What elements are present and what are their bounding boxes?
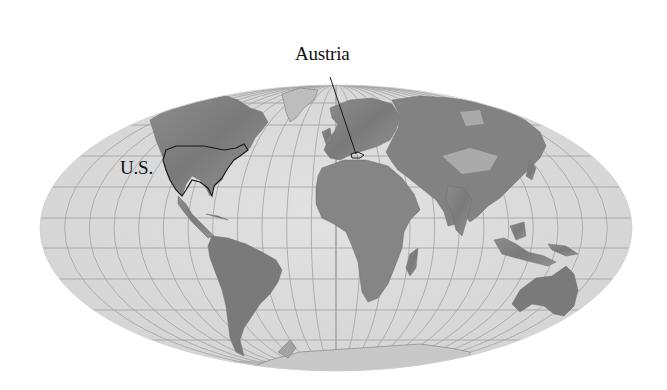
label-austria: Austria <box>295 44 350 63</box>
label-us: U.S. <box>120 158 153 177</box>
world-map: Austria U.S. <box>0 0 667 390</box>
